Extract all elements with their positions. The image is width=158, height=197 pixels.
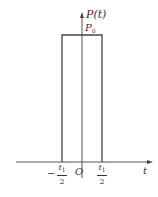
x-axis-label: t [143,166,147,176]
left-edge-label: t1 2 [57,163,67,186]
x-axis-arrow-icon [147,160,153,164]
origin-label: O [75,167,83,177]
minus-sign: − [47,168,55,179]
amplitude-label: P0 [85,23,96,36]
y-axis-arrow-icon [80,12,84,18]
y-axis-label: P(t) [86,10,106,20]
right-edge-label: t1 2 [97,163,107,186]
